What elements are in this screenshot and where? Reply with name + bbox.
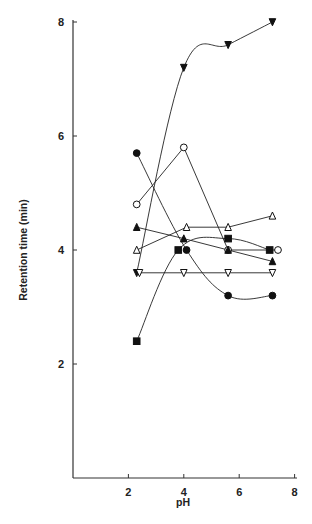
y-tick-label: 8 (58, 16, 64, 28)
open-circle-marker (133, 201, 140, 208)
filled-circle-marker (183, 247, 190, 254)
filled-circle-marker (225, 292, 232, 299)
open-circle-marker (180, 144, 187, 151)
filled-down-triangle-line (137, 22, 273, 273)
filled-triangle-marker (133, 223, 140, 230)
open-triangle-line (137, 216, 273, 250)
filled-down-triangle-marker (225, 42, 232, 49)
open-triangle-marker (269, 212, 276, 219)
filled-circle-marker (269, 292, 276, 299)
filled-square-marker (133, 338, 140, 345)
x-tick-label: 6 (236, 486, 242, 498)
x-axis-title: pH (176, 496, 190, 508)
open-circle-marker (275, 247, 282, 254)
filled-circle-marker (133, 150, 140, 157)
retention-time-chart: 24682468 pH Retention time (min) (0, 0, 312, 524)
x-tick-label: 2 (125, 486, 131, 498)
filled-down-triangle-marker (181, 64, 188, 71)
y-tick-label: 4 (58, 244, 65, 256)
open-triangle-marker (133, 246, 140, 253)
ticks: 24682468 (58, 16, 298, 498)
y-tick-label: 2 (58, 358, 64, 370)
filled-down-triangle-marker (269, 19, 276, 26)
y-tick-label: 6 (58, 130, 64, 142)
x-tick-label: 8 (292, 486, 298, 498)
filled-square-marker (175, 247, 182, 254)
series-lines (137, 22, 278, 341)
filled-triangle-line (137, 227, 273, 261)
filled-square-line (137, 237, 270, 341)
open-circle-line (137, 147, 278, 250)
filled-square-marker (225, 235, 232, 242)
y-axis-title: Retention time (min) (17, 199, 29, 301)
filled-square-marker (266, 247, 273, 254)
